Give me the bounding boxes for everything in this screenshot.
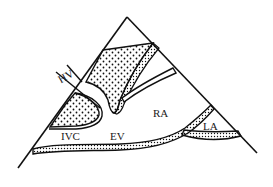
diagram-canvas: HV IVC EV RA LA: [0, 0, 273, 187]
label-la: LA: [203, 121, 218, 132]
label-ivc: IVC: [61, 131, 80, 142]
label-ev: EV: [110, 131, 125, 142]
heart-schematic: [0, 0, 273, 187]
label-ra: RA: [153, 108, 168, 119]
